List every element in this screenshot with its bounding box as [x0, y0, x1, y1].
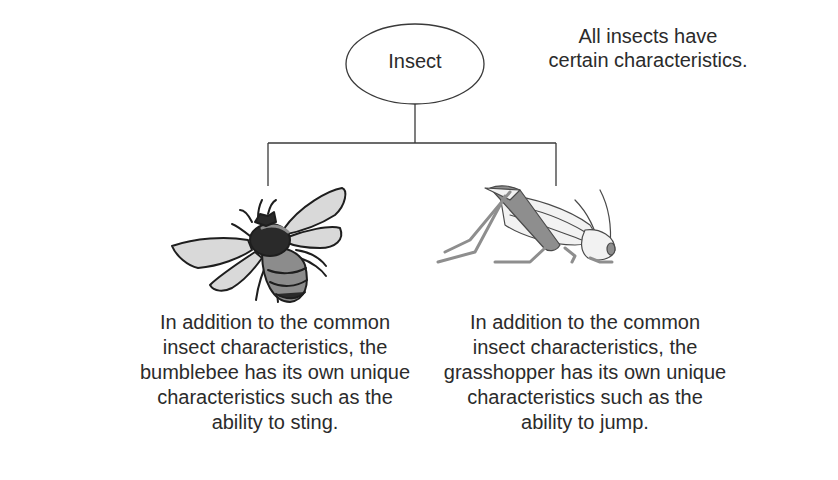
description-line: In addition to the common — [440, 310, 730, 335]
description-line: grasshopper has its own unique — [440, 360, 730, 385]
description-line: ability to jump. — [440, 410, 730, 435]
description-line: insect characteristics, the — [120, 335, 430, 360]
root-note-line: All insects have — [528, 24, 768, 48]
description-line: In addition to the common — [120, 310, 430, 335]
bumblebee-description: In addition to the common insect charact… — [120, 310, 430, 435]
description-line: characteristics such as the — [440, 385, 730, 410]
root-note: All insects have certain characteristics… — [528, 24, 768, 72]
description-line: ability to sting. — [120, 410, 430, 435]
root-node-label: Insect — [345, 50, 485, 73]
description-line: insect characteristics, the — [440, 335, 730, 360]
grasshopper-description: In addition to the common insect charact… — [440, 310, 730, 435]
root-note-line: certain characteristics. — [528, 48, 768, 72]
description-line: characteristics such as the — [120, 385, 430, 410]
description-line: bumblebee has its own unique — [120, 360, 430, 385]
grasshopper-icon — [438, 186, 615, 262]
bumblebee-icon — [172, 188, 345, 302]
